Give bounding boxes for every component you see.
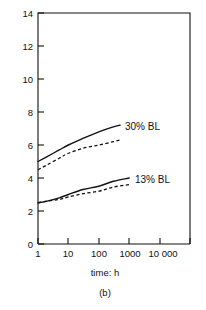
x-axis-title: time: h [91, 267, 120, 278]
series-annotation-13bl: 13% BL [135, 174, 170, 185]
panel-caption: (b) [99, 287, 111, 298]
y-tick-label-14: 14 [22, 8, 33, 19]
y-tick-label-10: 10 [22, 74, 33, 85]
x-tick-label-10000: 10 000 [148, 248, 177, 259]
figure-panel-b: 14 12 10 8 6 4 2 0 1 10 100 1000 10 000 … [0, 0, 206, 310]
curve-13bl-solid [38, 178, 129, 203]
y-tick-label-12: 12 [22, 41, 33, 52]
curve-13bl-dashed [38, 185, 129, 203]
x-axis-ticks [38, 238, 190, 244]
x-tick-label-1: 1 [35, 248, 40, 259]
y-tick-label-4: 4 [28, 173, 33, 184]
x-tick-label-1000: 1000 [119, 248, 140, 259]
x-tick-label-100: 100 [91, 248, 107, 259]
y-tick-label-0: 0 [28, 239, 33, 250]
y-tick-label-8: 8 [28, 107, 33, 118]
y-tick-label-6: 6 [28, 140, 33, 151]
y-tick-label-2: 2 [28, 206, 33, 217]
series-annotation-30bl: 30% BL [125, 121, 160, 132]
line-chart: 14 12 10 8 6 4 2 0 1 10 100 1000 10 000 … [0, 0, 206, 310]
y-axis-ticks [38, 13, 44, 244]
x-tick-label-10: 10 [63, 248, 74, 259]
plot-frame [38, 13, 190, 244]
